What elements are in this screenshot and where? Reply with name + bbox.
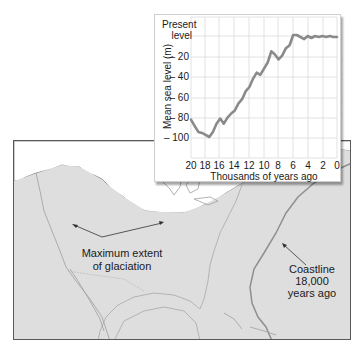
glaciation-label-line1: Maximum extent [62,247,182,260]
x-tick: 14 [226,160,242,171]
x-tick: 8 [270,160,286,171]
x-tick: 0 [329,160,345,171]
grid [191,17,337,158]
y-tick-40: – 40 [163,71,189,82]
x-tick: 4 [300,160,316,171]
glaciation-label-line2: of glaciation [62,260,182,273]
y-tick-60: – 60 [163,92,189,103]
x-tick: 6 [285,160,301,171]
present-label-line2: level [162,30,192,41]
sea-level-chart: Mean sea level (m) Present level – 20 – … [154,14,341,182]
x-axis-title: Thousands of years ago [191,171,337,182]
glaciation-label: Maximum extent of glaciation [62,247,182,273]
coastline-label-line1: Coastline [280,263,344,275]
present-level-label: Present level [162,19,192,41]
y-tick-100: – 100 [157,132,189,143]
x-tick: 12 [241,160,257,171]
y-tick-80: – 80 [163,112,189,123]
coastline-label: Coastline 18,000 years ago [280,263,344,299]
y-tick-20: – 20 [163,51,189,62]
present-label-line1: Present [162,19,192,30]
coastline-label-line3: years ago [280,287,344,299]
coastline-label-line2: 18,000 [280,275,344,287]
x-tick: 16 [211,160,227,171]
